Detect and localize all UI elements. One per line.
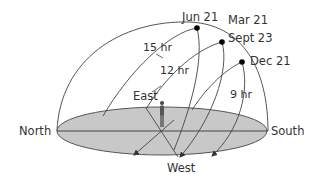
label-12-hr: 12 hr <box>160 64 189 77</box>
sun-path-diagram: Jun 21 Mar 21 Sept 23 Dec 21 15 hr 12 hr… <box>0 0 318 184</box>
label-east: East <box>133 89 158 103</box>
label-south: South <box>271 124 304 138</box>
label-dec-21: Dec 21 <box>250 54 291 68</box>
sun-dot-dec <box>239 59 245 65</box>
label-west: West <box>167 161 196 175</box>
label-sept-23: Sept 23 <box>228 31 272 45</box>
sun-dot-jun <box>194 25 200 31</box>
label-jun-21: Jun 21 <box>181 10 218 24</box>
label-north: North <box>19 124 51 138</box>
label-15-hr: 15 hr <box>143 41 172 54</box>
sun-dot-equinox <box>219 39 225 45</box>
label-9-hr: 9 hr <box>230 88 252 101</box>
leader-15-hr <box>156 54 163 58</box>
label-mar-21: Mar 21 <box>228 13 268 27</box>
